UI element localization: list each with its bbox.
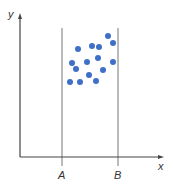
scatter-point <box>93 78 99 84</box>
scatter-point <box>77 79 83 85</box>
scatter-point <box>84 59 90 65</box>
line-a-label: A <box>58 169 65 181</box>
scatter-points <box>67 33 116 85</box>
y-axis-label: y <box>8 8 14 20</box>
x-axis-label: x <box>158 160 164 172</box>
scatter-point <box>110 40 116 46</box>
scatter-point <box>96 44 102 50</box>
y-axis-arrow-icon <box>18 13 22 19</box>
scatter-point <box>75 46 81 52</box>
scatter-point <box>86 72 92 78</box>
scatter-point <box>89 43 95 49</box>
scatter-point <box>105 33 111 39</box>
x-axis-arrow-icon <box>158 155 164 159</box>
scatter-point <box>67 79 73 85</box>
scatter-point <box>69 60 75 66</box>
line-b-label: B <box>114 169 121 181</box>
scatter-point <box>73 66 79 72</box>
scatter-diagram <box>0 0 173 192</box>
scatter-point <box>95 55 101 61</box>
scatter-point <box>110 59 116 65</box>
scatter-point <box>100 67 106 73</box>
